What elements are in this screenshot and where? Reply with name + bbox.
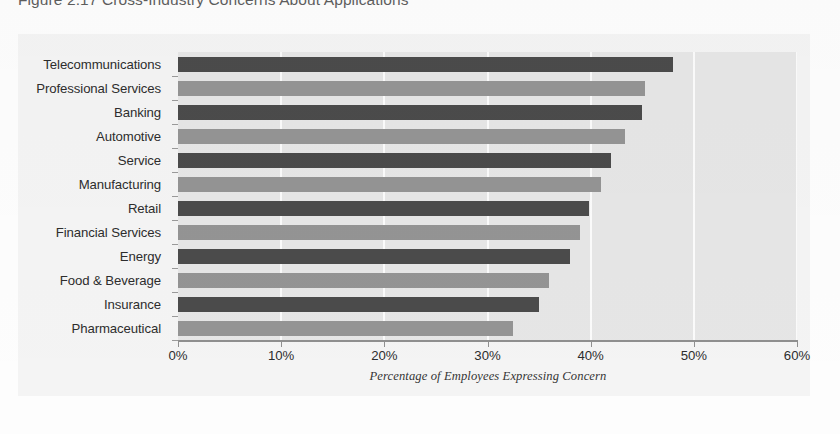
- category-label: Retail: [18, 196, 170, 220]
- category-label: Service: [18, 148, 170, 172]
- bar-row: [178, 220, 797, 244]
- value-axis-title: Percentage of Employees Expressing Conce…: [178, 369, 798, 384]
- bar-row: [178, 244, 797, 268]
- category-label: Banking: [18, 100, 170, 124]
- plot-area: [178, 52, 797, 340]
- category-label: Insurance: [18, 292, 170, 316]
- figure-caption: Figure 2.17 Cross-Industry Concerns Abou…: [18, 0, 818, 13]
- value-tick: [384, 341, 385, 347]
- bar: [178, 129, 625, 144]
- bar-row: [178, 124, 797, 148]
- bar: [178, 57, 673, 72]
- bar-row: [178, 292, 797, 316]
- bar-row: [178, 52, 797, 76]
- bar-row: [178, 148, 797, 172]
- category-label: Energy: [18, 244, 170, 268]
- bar: [178, 297, 539, 312]
- bar-row: [178, 196, 797, 220]
- bar-row: [178, 172, 797, 196]
- category-label: Financial Services: [18, 220, 170, 244]
- bar-row: [178, 100, 797, 124]
- bar-row: [178, 268, 797, 292]
- bar: [178, 153, 611, 168]
- value-tick: [694, 341, 695, 347]
- value-tick: [488, 341, 489, 347]
- bar: [178, 201, 589, 216]
- value-tick-label: 10%: [268, 348, 294, 363]
- bar: [178, 177, 601, 192]
- value-tick: [797, 341, 798, 347]
- value-tick-label: 50%: [681, 348, 707, 363]
- category-label: Automotive: [18, 124, 170, 148]
- value-tick-label: 60%: [784, 348, 810, 363]
- bar: [178, 105, 642, 120]
- value-tick-label: 0%: [168, 348, 187, 363]
- value-axis-ticks: [178, 341, 798, 347]
- value-tick-label: 30%: [474, 348, 500, 363]
- value-tick-label: 20%: [371, 348, 397, 363]
- bar-chart-panel: TelecommunicationsProfessional ServicesB…: [18, 34, 810, 396]
- bar-row: [178, 316, 797, 340]
- category-label: Telecommunications: [18, 52, 170, 76]
- bar: [178, 321, 513, 336]
- category-label: Food & Beverage: [18, 268, 170, 292]
- bar-series: [178, 52, 797, 340]
- bar: [178, 225, 580, 240]
- value-tick: [281, 341, 282, 347]
- bar: [178, 81, 645, 96]
- value-tick: [591, 341, 592, 347]
- category-label: Manufacturing: [18, 172, 170, 196]
- bar: [178, 273, 549, 288]
- value-tick-label: 40%: [577, 348, 603, 363]
- category-label: Pharmaceutical: [18, 316, 170, 340]
- value-axis-tick-labels: 0%10%20%30%40%50%60%: [178, 348, 798, 368]
- value-tick: [178, 341, 179, 347]
- bar-row: [178, 76, 797, 100]
- category-axis-labels: TelecommunicationsProfessional ServicesB…: [18, 52, 170, 340]
- bar: [178, 249, 570, 264]
- category-label: Professional Services: [18, 76, 170, 100]
- document-page: Figure 2.17 Cross-Industry Concerns Abou…: [0, 0, 840, 434]
